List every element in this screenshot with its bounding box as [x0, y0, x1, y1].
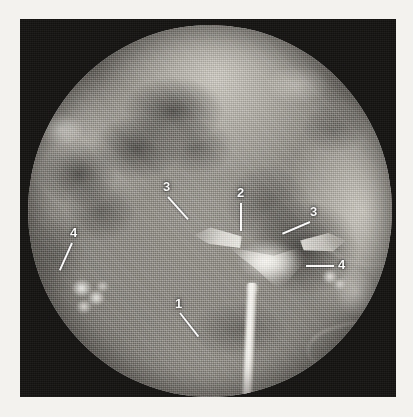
label-3-left: 3	[163, 180, 170, 193]
label-2-leader	[240, 203, 242, 231]
label-3-left-leader	[167, 196, 189, 220]
label-3-right: 3	[310, 205, 317, 218]
label-4-left-leader	[59, 243, 73, 271]
label-2: 2	[237, 186, 244, 199]
label-1-leader	[179, 312, 199, 337]
label-4-left: 4	[70, 226, 77, 239]
label-1: 1	[175, 297, 182, 310]
radiograph-figure: 123344	[0, 0, 413, 417]
label-4-right-leader	[306, 265, 334, 267]
film-frame: 123344	[20, 19, 396, 397]
label-3-right-leader	[282, 221, 310, 235]
annotation-overlay: 123344	[20, 19, 396, 397]
label-4-right: 4	[338, 258, 345, 271]
